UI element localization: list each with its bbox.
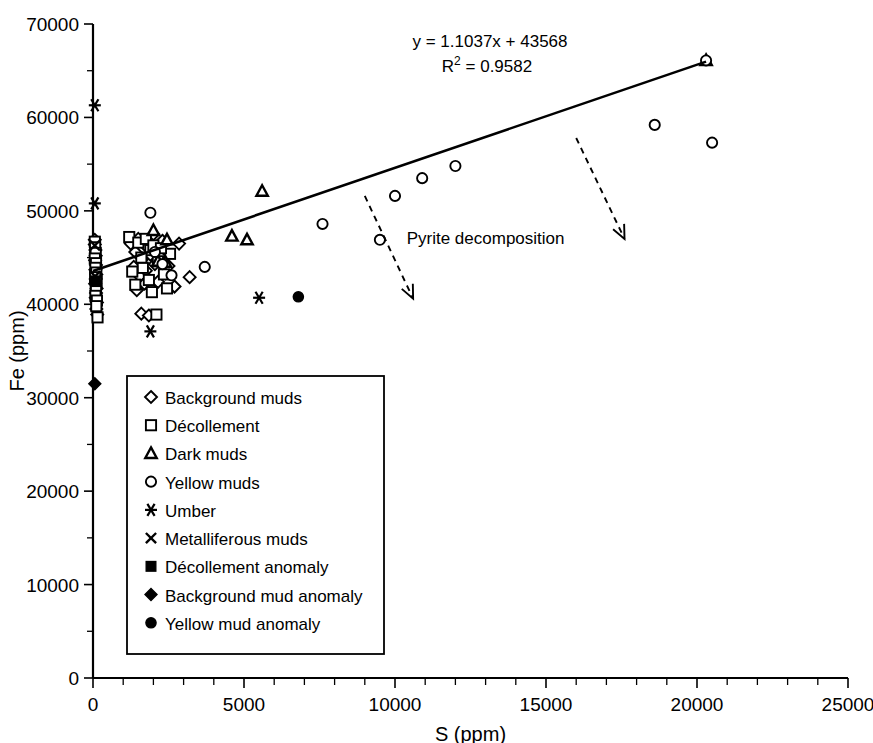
- x-axis-tick-labels: 0500010000150002000025000: [88, 694, 873, 715]
- y-axis-title: Fe (ppm): [6, 310, 28, 391]
- data-point: [707, 138, 717, 148]
- data-point: [200, 262, 210, 272]
- y-axis-tick-label: 0: [68, 668, 79, 689]
- data-point: [138, 263, 148, 273]
- x-axis-title: S (ppm): [435, 723, 506, 743]
- y-axis-tick-label: 50000: [26, 201, 79, 222]
- series-umber: [89, 99, 265, 337]
- data-point: [256, 185, 267, 196]
- data-point: [91, 301, 101, 311]
- legend-item-label: Yellow mud anomaly: [165, 615, 321, 634]
- x-axis-tick-label: 10000: [369, 694, 422, 715]
- y-axis-tick-label: 60000: [26, 107, 79, 128]
- series-yellow-mud-anomaly: [293, 292, 303, 302]
- annotation-label: Pyrite decomposition: [407, 229, 565, 248]
- scatter-chart: 010000200003000040000500006000070000 050…: [0, 0, 873, 743]
- data-point: [166, 270, 176, 280]
- data-point: [253, 292, 265, 304]
- series-background-mud-anomaly: [89, 378, 101, 390]
- legend-item[interactable]: Metalliferous muds: [146, 530, 308, 549]
- series-d-collement-anomaly: [91, 276, 101, 286]
- legend-item[interactable]: Background mud anomaly: [145, 587, 363, 606]
- x-axis-tick-label: 15000: [520, 694, 573, 715]
- data-point: [148, 224, 159, 235]
- data-point: [226, 230, 237, 241]
- data-point: [89, 99, 101, 111]
- legend-item-label: Décollement: [165, 417, 260, 436]
- y-axis-tick-label: 30000: [26, 388, 79, 409]
- y-axis-tick-label: 10000: [26, 575, 79, 596]
- plot-area: 010000200003000040000500006000070000 050…: [6, 14, 873, 743]
- data-point: [650, 120, 660, 130]
- y-axis-tick-labels: 010000200003000040000500006000070000: [26, 14, 79, 689]
- y-axis-tick-label: 20000: [26, 481, 79, 502]
- legend-marker-filled-circle: [146, 618, 156, 628]
- regression-trendline: [93, 62, 706, 271]
- data-point: [145, 208, 155, 218]
- trendline-equation-label: y = 1.1037x + 43568: [412, 32, 567, 51]
- data-point: [241, 234, 252, 245]
- legend-item-label: Umber: [165, 502, 216, 521]
- annotation-arrow-head: [613, 224, 624, 239]
- legend-marker-open-circle: [146, 477, 156, 487]
- data-point: [144, 325, 156, 337]
- annotation-group: Pyrite decomposition: [365, 138, 625, 299]
- data-point: [293, 292, 303, 302]
- y-axis-tick-label: 40000: [26, 294, 79, 315]
- data-point: [390, 191, 400, 201]
- legend-item[interactable]: Décollement anomaly: [146, 558, 329, 577]
- legend-item[interactable]: Background muds: [145, 389, 302, 408]
- legend-marker-filled-square: [146, 562, 156, 572]
- x-axis-tick-label: 20000: [671, 694, 724, 715]
- data-point: [417, 173, 427, 183]
- data-point: [151, 309, 161, 319]
- data-point: [450, 161, 460, 171]
- legend-item-label: Background mud anomaly: [165, 587, 363, 606]
- legend-item-label: Yellow muds: [165, 474, 260, 493]
- data-point: [184, 271, 196, 283]
- legend-marker-open-square: [146, 420, 156, 430]
- data-point: [130, 280, 140, 290]
- x-axis-tick-label: 25000: [822, 694, 873, 715]
- x-axis-major-ticks: [93, 678, 848, 688]
- data-point: [91, 276, 101, 286]
- annotation-arrow-line: [576, 138, 624, 239]
- legend-item[interactable]: Yellow mud anomaly: [146, 615, 321, 634]
- x-axis-tick-label: 0: [88, 694, 99, 715]
- data-point: [127, 266, 137, 276]
- legend-item-label: Dark muds: [165, 445, 247, 464]
- x-axis-tick-label: 5000: [223, 694, 265, 715]
- y-axis-tick-label: 70000: [26, 14, 79, 35]
- data-point: [157, 259, 167, 269]
- legend-item-label: Metalliferous muds: [165, 530, 308, 549]
- data-point: [89, 197, 101, 209]
- chart-canvas: 010000200003000040000500006000070000 050…: [0, 0, 873, 743]
- data-point: [162, 283, 172, 293]
- data-point: [89, 378, 101, 390]
- data-point: [144, 275, 154, 285]
- data-point: [92, 312, 102, 322]
- chart-legend: Background mudsDécollementDark mudsYello…: [127, 376, 384, 654]
- data-point-series-group: [89, 54, 717, 389]
- data-point: [147, 287, 157, 297]
- data-point: [317, 219, 327, 229]
- legend-item-label: Décollement anomaly: [165, 558, 329, 577]
- trendline-r2-label: R2 = 0.9582: [442, 54, 532, 76]
- legend-item-label: Background muds: [165, 389, 302, 408]
